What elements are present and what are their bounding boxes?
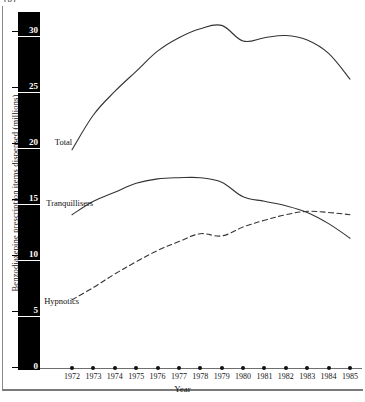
figure-container: (b) 051015202530 Benzodiazepine prescrip… <box>0 0 365 402</box>
x-axis-tick-label-1985: 1985 <box>335 372 365 381</box>
x-axis-tick-marker <box>177 366 181 370</box>
x-axis-tick-marker <box>156 366 160 370</box>
x-axis-tick-marker <box>284 366 288 370</box>
plot-area: 051015202530 Benzodiazepine prescription… <box>0 0 365 402</box>
x-axis-tick-marker <box>113 366 117 370</box>
x-axis-tick-marker <box>70 366 74 370</box>
series-label-tranquillisers: Tranquillisers <box>46 198 93 208</box>
x-axis-title: Year <box>0 384 365 394</box>
series-line-hypnotics <box>72 211 350 300</box>
series-label-hypnotics: Hypnotics <box>44 296 79 306</box>
x-axis-tick-marker <box>348 366 352 370</box>
series-label-total: Total <box>55 137 72 147</box>
series-line-total <box>72 25 350 150</box>
x-axis-tick-marker <box>220 366 224 370</box>
series-line-tranquillisers <box>72 177 350 238</box>
x-axis-tick-marker <box>327 366 331 370</box>
